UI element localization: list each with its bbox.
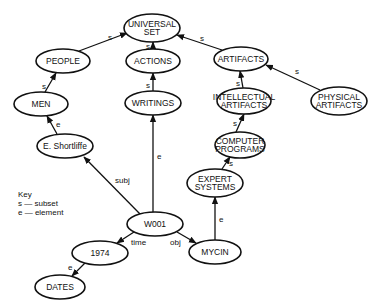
edge-intellectual_artifacts-to-artifacts: s: [236, 71, 243, 88]
edge-expert_systems-to-computer_programs: s: [222, 157, 233, 169]
semantic-network-diagram: sssssssssesubjetimeobjee UNIVERSALSETPEO…: [0, 0, 376, 305]
edge-mycin-to-expert_systems: e: [215, 197, 224, 240]
node-expert-systems: EXPERTSYSTEMS: [187, 169, 243, 197]
node-label: SYSTEMS: [195, 182, 236, 192]
edge-label: s: [108, 33, 112, 42]
edge-label: s: [233, 119, 237, 128]
legend-item-element: e — element: [18, 208, 63, 217]
edge-w001-to-e_shortliffe: subj: [84, 157, 140, 214]
edge-label: e: [157, 152, 162, 161]
legend-title: Key: [18, 190, 63, 199]
edge-men-to-people: s: [42, 73, 56, 92]
nodes-layer: UNIVERSALSETPEOPLEACTIONSARTIFACTSMENWRI…: [14, 14, 367, 299]
node-intellectual-artifacts: INTELLECTUALARTIFACTS: [213, 88, 276, 114]
node-label: WRITINGS: [132, 98, 175, 108]
edge-label: e: [68, 263, 73, 272]
edge-w001-to-mycin: obj: [170, 232, 196, 247]
edge-year_1974-to-dates: e: [68, 263, 85, 276]
edge-arrow: [84, 157, 140, 214]
node-label: E. Shortliffe: [43, 141, 87, 151]
node-dates: DATES: [35, 275, 85, 299]
edge-arrow: [72, 263, 85, 276]
edge-physical_artifacts-to-artifacts: s: [266, 65, 320, 90]
edge-people-to-universal_set: s: [79, 33, 127, 51]
node-label: DATES: [46, 282, 74, 292]
edge-label: s: [236, 79, 240, 88]
edge-label: s: [200, 34, 204, 43]
edge-label: s: [295, 67, 299, 76]
edge-label: e: [219, 215, 224, 224]
legend-key: Key s — subset e — element: [18, 190, 63, 217]
edge-arrow: [240, 71, 243, 88]
node-year-1974: 1974: [72, 241, 128, 265]
node-label: SET: [144, 27, 161, 37]
node-label: PEOPLE: [46, 56, 80, 66]
edge-label: subj: [115, 176, 130, 185]
edge-label: s: [146, 81, 150, 90]
node-writings: WRITINGS: [125, 91, 181, 115]
node-label: ARTIFACTS: [316, 100, 363, 110]
node-mycin: MYCIN: [189, 240, 241, 264]
edge-label: obj: [170, 238, 181, 247]
edge-label: e: [56, 120, 61, 129]
edge-writings-to-actions: s: [146, 73, 153, 91]
node-w001: W001: [127, 212, 183, 236]
node-computer-programs: COMPUTERPROGRAMS: [215, 132, 265, 158]
edge-artifacts-to-universal_set: s: [177, 34, 222, 50]
node-men: MEN: [14, 92, 68, 116]
edge-w001-to-writings: e: [153, 115, 162, 212]
node-label: ACTIONS: [134, 56, 172, 66]
edge-label: time: [131, 238, 147, 247]
node-label: ARTIFACTS: [218, 54, 265, 64]
node-label: W001: [144, 219, 166, 229]
edge-label: s: [42, 82, 46, 91]
edge-arrow: [266, 65, 320, 90]
node-e-shortliffe: E. Shortliffe: [37, 134, 93, 158]
node-label: MYCIN: [201, 247, 228, 257]
node-actions: ACTIONS: [126, 49, 180, 73]
edge-e_shortliffe-to-men: e: [47, 116, 61, 134]
node-label: 1974: [91, 248, 110, 258]
edge-arrow: [79, 33, 127, 51]
node-artifacts: ARTIFACTS: [214, 47, 268, 71]
edge-arrow: [45, 73, 56, 92]
node-physical-artifacts: PHYSICALARTIFACTS: [311, 87, 367, 115]
legend-item-subset: s — subset: [18, 199, 63, 208]
node-label: MEN: [32, 99, 51, 109]
edge-label: s: [229, 159, 233, 168]
node-universal-set: UNIVERSALSET: [124, 14, 180, 42]
edge-arrow: [236, 114, 244, 132]
node-label: ARTIFACTS: [221, 100, 268, 110]
node-label: PROGRAMS: [215, 144, 265, 154]
edge-computer_programs-to-intellectual_artifacts: s: [233, 114, 244, 132]
node-people: PEOPLE: [36, 49, 90, 73]
